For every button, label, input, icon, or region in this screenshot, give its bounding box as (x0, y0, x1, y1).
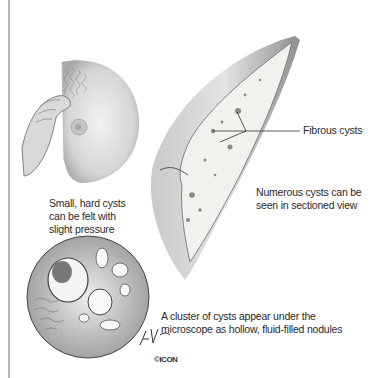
label-line: A cluster of cysts appear under the (161, 310, 371, 323)
label-line: microscope as hollow, fluid-filled nodul… (161, 323, 371, 336)
label-numerous-cysts: Numerous cysts can be seen in sectioned … (256, 186, 376, 212)
label-line: Small, hard cysts (49, 197, 139, 210)
palpation-illustration (22, 60, 139, 183)
icon-logo: ©ICON (154, 355, 177, 364)
sectioned-breast-illustration (151, 36, 300, 280)
label-small-hard-cysts: Small, hard cysts can be felt with sligh… (49, 197, 139, 236)
label-line: slight pressure (49, 223, 139, 236)
label-line: can be felt with (49, 210, 139, 223)
label-line: Numerous cysts can be (256, 186, 376, 199)
label-fibrous-cysts: Fibrous cysts (303, 124, 362, 137)
label-line: seen in sectioned view (256, 199, 376, 212)
label-cluster-of-cysts: A cluster of cysts appear under the micr… (161, 310, 371, 336)
microscope-view-illustration (27, 236, 170, 358)
